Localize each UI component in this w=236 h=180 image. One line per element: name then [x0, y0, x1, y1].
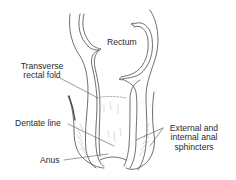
rectum-anatomy-diagram [0, 0, 236, 180]
right-rectal-wall-inner-2 [124, 80, 140, 166]
mucosa-texture [104, 102, 121, 142]
label-dentate-text: Dentate line [15, 118, 61, 128]
anal-opening [100, 157, 126, 160]
label-anal-sphincters: External and internal anal sphincters [163, 124, 225, 152]
label-anus: Anus [40, 156, 60, 165]
label-transverse-line2: rectal fold [13, 71, 71, 80]
label-sphincters-line3: sphincters [163, 143, 225, 152]
right-rectal-wall-inner [121, 26, 148, 77]
right-sphincter-hatching [139, 124, 149, 156]
label-dentate-line: Dentate line [15, 119, 61, 128]
label-rectum-text: Rectum [107, 37, 137, 47]
transverse-rectal-fold [96, 97, 126, 99]
label-rectum: Rectum [107, 38, 137, 47]
label-anus-text: Anus [40, 155, 60, 165]
label-transverse-rectal-fold: Transverse rectal fold [13, 62, 71, 81]
leader-transverse [60, 78, 98, 98]
left-rectal-wall-outer [69, 14, 96, 168]
right-outer-contour [138, 10, 158, 170]
